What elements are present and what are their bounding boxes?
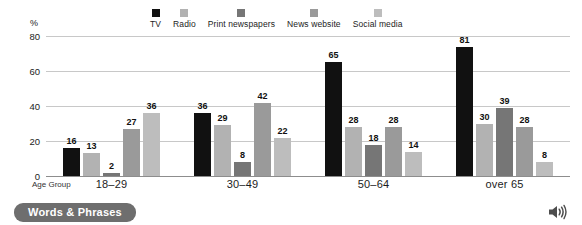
bar[interactable] <box>325 62 342 176</box>
legend-item: Print newspapers <box>208 9 275 29</box>
y-axis-tick-label: 60 <box>29 66 40 77</box>
y-axis-tick-label: 80 <box>29 31 40 42</box>
bar[interactable] <box>385 127 402 176</box>
bar-item[interactable]: 65 <box>325 36 342 176</box>
bar-group: 813039288 <box>439 36 570 176</box>
legend-item: Social media <box>353 9 403 29</box>
legend-item: Radio <box>173 9 196 29</box>
x-axis-line: 0 <box>46 176 570 177</box>
y-axis-unit-label: % <box>30 18 38 28</box>
bar-group: 161322736 <box>46 36 177 176</box>
bar[interactable] <box>496 108 513 176</box>
bar-item[interactable]: 42 <box>254 36 271 176</box>
x-axis-tick-label: over 65 <box>439 178 570 194</box>
bar-value-label: 36 <box>197 102 207 111</box>
legend-swatch-icon <box>374 9 382 17</box>
bar-item[interactable]: 16 <box>63 36 80 176</box>
bar[interactable] <box>345 127 362 176</box>
bar-value-label: 39 <box>499 97 509 106</box>
bar[interactable] <box>83 153 100 176</box>
chart-legend: TVRadioPrint newspapersNews websiteSocia… <box>150 9 403 29</box>
bar-item[interactable]: 28 <box>385 36 402 176</box>
bar[interactable] <box>274 138 291 177</box>
legend-label: Print newspapers <box>208 20 275 29</box>
bar-item[interactable]: 8 <box>536 36 553 176</box>
x-axis-tick-label: 18–29 <box>46 178 177 194</box>
bar-groups: 1613227363629842226528182814813039288 <box>46 36 570 176</box>
bar-item[interactable]: 29 <box>214 36 231 176</box>
bar-group: 362984222 <box>177 36 308 176</box>
media-use-by-age-chart: TVRadioPrint newspapersNews websiteSocia… <box>0 0 582 225</box>
bar[interactable] <box>405 152 422 177</box>
bar-item[interactable]: 30 <box>476 36 493 176</box>
bar-item[interactable]: 27 <box>123 36 140 176</box>
bar[interactable] <box>194 113 211 176</box>
legend-swatch-icon <box>180 9 188 17</box>
bar-value-label: 65 <box>328 51 338 60</box>
bar[interactable] <box>536 162 553 176</box>
bar-value-label: 18 <box>368 134 378 143</box>
bar-value-label: 8 <box>542 151 547 160</box>
legend-label: News website <box>287 20 341 29</box>
bar-value-label: 81 <box>459 36 469 45</box>
bar-value-label: 28 <box>519 116 529 125</box>
bar-value-label: 13 <box>86 142 96 151</box>
bar-value-label: 30 <box>479 113 489 122</box>
legend-swatch-icon <box>152 9 160 17</box>
legend-label: Radio <box>173 20 196 29</box>
bar[interactable] <box>516 127 533 176</box>
bar-item[interactable]: 36 <box>143 36 160 176</box>
words-and-phrases-button[interactable]: Words & Phrases <box>14 203 136 222</box>
legend-item: News website <box>287 9 341 29</box>
bar-item[interactable]: 81 <box>456 36 473 176</box>
legend-swatch-icon <box>237 9 245 17</box>
x-axis-tick-label: 30–49 <box>177 178 308 194</box>
bar-item[interactable]: 36 <box>194 36 211 176</box>
bar[interactable] <box>476 124 493 177</box>
bar-value-label: 27 <box>126 118 136 127</box>
bar-group: 6528182814 <box>308 36 439 176</box>
bar-item[interactable]: 2 <box>103 36 120 176</box>
y-axis-tick-label: 20 <box>29 136 40 147</box>
bar-value-label: 28 <box>348 116 358 125</box>
bar-value-label: 42 <box>257 92 267 101</box>
bar[interactable] <box>456 47 473 176</box>
bar-value-label: 14 <box>408 141 418 150</box>
speaker-icon[interactable] <box>546 203 570 221</box>
x-axis-tick-label: 50–64 <box>308 178 439 194</box>
bar[interactable] <box>63 148 80 176</box>
footer-bar: Words & Phrases <box>0 203 582 225</box>
bar[interactable] <box>254 103 271 177</box>
bar-value-label: 22 <box>277 127 287 136</box>
legend-swatch-icon <box>310 9 318 17</box>
bar-item[interactable]: 18 <box>365 36 382 176</box>
bar-item[interactable]: 13 <box>83 36 100 176</box>
bar[interactable] <box>365 145 382 177</box>
bar-value-label: 16 <box>66 137 76 146</box>
bar-item[interactable]: 14 <box>405 36 422 176</box>
bar[interactable] <box>143 113 160 176</box>
legend-item: TV <box>150 9 161 29</box>
bar[interactable] <box>214 125 231 176</box>
bar-item[interactable]: 22 <box>274 36 291 176</box>
bar-item[interactable]: 8 <box>234 36 251 176</box>
bar-item[interactable]: 28 <box>345 36 362 176</box>
bar-value-label: 36 <box>146 102 156 111</box>
bar[interactable] <box>123 129 140 176</box>
x-axis-tick-labels: 18–2930–4950–64over 65 <box>46 178 570 194</box>
bar-item[interactable]: 28 <box>516 36 533 176</box>
bar-value-label: 8 <box>240 151 245 160</box>
bar-value-label: 2 <box>109 162 114 171</box>
bar-value-label: 28 <box>388 116 398 125</box>
bar[interactable] <box>103 173 120 177</box>
bar-item[interactable]: 39 <box>496 36 513 176</box>
legend-label: TV <box>150 20 161 29</box>
plot-area: 020406080 161322736362984222652818281481… <box>46 36 570 176</box>
bar-value-label: 29 <box>217 114 227 123</box>
y-axis-tick-label: 40 <box>29 101 40 112</box>
bar[interactable] <box>234 162 251 176</box>
legend-label: Social media <box>353 20 403 29</box>
